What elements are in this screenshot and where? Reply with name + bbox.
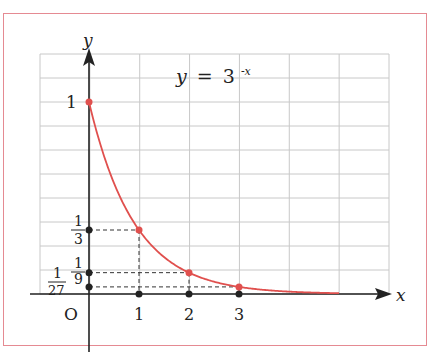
equation-lhs: y bbox=[175, 65, 187, 87]
y-tick-one-third-den: 3 bbox=[74, 231, 83, 247]
x-tick-dot bbox=[186, 291, 193, 298]
x-axis-label: x bbox=[396, 285, 406, 305]
x-tick-dot bbox=[136, 291, 143, 298]
curve-point bbox=[186, 269, 193, 276]
grid bbox=[40, 54, 389, 294]
curve-point bbox=[136, 227, 143, 234]
curve-point bbox=[236, 283, 243, 290]
y-tick-1: 1 bbox=[66, 92, 77, 112]
x-tick-1: 1 bbox=[134, 305, 144, 324]
y-tick-one-ninth-den: 9 bbox=[74, 271, 83, 287]
y-tick-one-27th-num: 1 bbox=[53, 265, 62, 281]
exponential-chart: y x O 1 2 3 1 1 3 1 9 1 27 y = 3 -x bbox=[0, 0, 446, 362]
y-tick-one-third-num: 1 bbox=[74, 213, 83, 229]
curve-points bbox=[86, 99, 243, 291]
origin-label: O bbox=[64, 304, 78, 324]
equation-exponent: -x bbox=[241, 65, 252, 78]
x-tick-3: 3 bbox=[234, 305, 244, 324]
axes bbox=[30, 62, 378, 352]
x-tick-dot bbox=[236, 291, 243, 298]
y-tick-one-27th-den: 27 bbox=[48, 283, 65, 298]
equation-eq: = bbox=[197, 65, 213, 87]
equation-label: y = 3 -x bbox=[175, 65, 252, 87]
curve-point bbox=[86, 99, 93, 106]
x-tick-2: 2 bbox=[184, 305, 194, 324]
dashed-guides bbox=[89, 230, 239, 294]
y-tick-one-ninth-num: 1 bbox=[74, 255, 83, 271]
y-tick-dot bbox=[86, 283, 93, 290]
y-tick-dot bbox=[86, 269, 93, 276]
y-tick-dot bbox=[86, 227, 93, 234]
y-axis-label: y bbox=[82, 30, 93, 50]
equation-base: 3 bbox=[223, 65, 235, 87]
